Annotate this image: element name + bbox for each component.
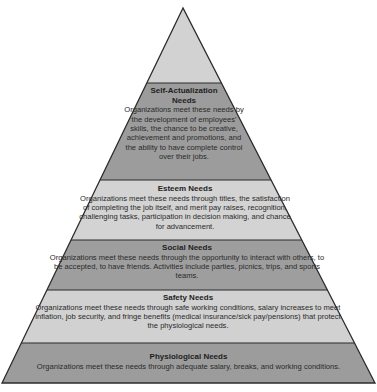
level-description: Organizations meet these needs through t…: [72, 194, 298, 232]
level-physiological: Physiological Needs Organizations meet t…: [10, 352, 367, 371]
level-description: Organizations meet these needs through t…: [42, 253, 332, 281]
level-description: Organizations meet these needs by the de…: [117, 105, 251, 161]
pyramid-apex-band: [0, 0, 377, 83]
level-title: Physiological Needs: [10, 352, 367, 362]
level-title: Safety Needs: [28, 293, 348, 303]
level-description: Organizations meet these needs through a…: [10, 362, 367, 371]
level-social: Social Needs Organizations meet these ne…: [42, 243, 332, 281]
level-title: Social Needs: [42, 243, 332, 253]
level-title: Esteem Needs: [72, 184, 298, 194]
level-description: Organizations meet these needs through s…: [28, 303, 348, 331]
level-self-actualization: Self-ActualizationNeeds Organizations me…: [117, 86, 251, 162]
level-title: Self-ActualizationNeeds: [117, 86, 251, 105]
level-safety: Safety Needs Organizations meet these ne…: [28, 293, 348, 331]
level-esteem: Esteem Needs Organizations meet these ne…: [72, 184, 298, 231]
